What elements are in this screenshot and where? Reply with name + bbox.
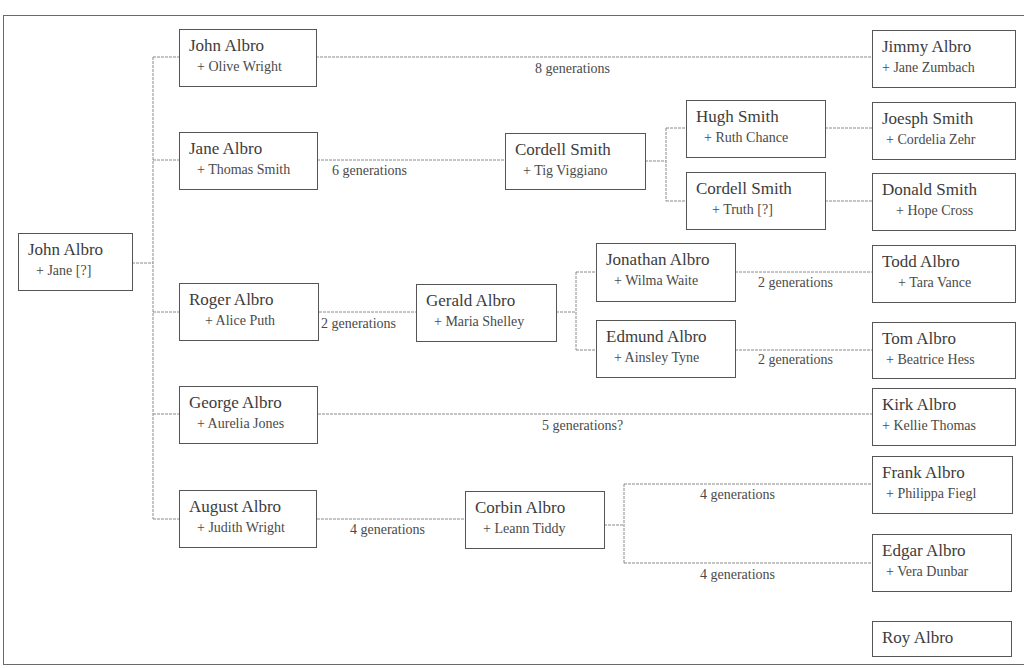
- person-name: Tom Albro: [882, 328, 1015, 349]
- spouse-name: + Alice Puth: [189, 310, 318, 331]
- spouse-name: + Ainsley Tyne: [606, 347, 735, 368]
- generation-label: 6 generations: [332, 163, 407, 179]
- spouse-name: + Leann Tiddy: [475, 518, 604, 539]
- generation-label: 8 generations: [535, 61, 610, 77]
- person-name: Jane Albro: [189, 138, 317, 159]
- generation-label: 2 generations: [758, 275, 833, 291]
- person-box-corbin-albro[interactable]: Corbin Albro + Leann Tiddy: [465, 491, 605, 549]
- person-box-todd-albro[interactable]: Todd Albro + Tara Vance: [872, 245, 1016, 303]
- person-box-frank-albro[interactable]: Frank Albro + Philippa Fiegl: [872, 456, 1013, 514]
- person-box-jonathan-albro[interactable]: Jonathan Albro + Wilma Waite: [596, 243, 736, 302]
- spouse-name: + Ruth Chance: [696, 127, 825, 148]
- generation-label: 4 generations: [350, 522, 425, 538]
- spouse-name: + Tig Viggiano: [515, 160, 645, 181]
- spouse-name: + Thomas Smith: [189, 159, 317, 180]
- person-name: Gerald Albro: [426, 290, 556, 311]
- spouse-name: + Cordelia Zehr: [882, 129, 1015, 150]
- person-box-roy-albro[interactable]: Roy Albro: [872, 621, 1012, 657]
- person-box-hugh-smith[interactable]: Hugh Smith + Ruth Chance: [686, 100, 826, 158]
- person-name: Kirk Albro: [882, 394, 1015, 415]
- spouse-name: + Philippa Fiegl: [882, 483, 1012, 504]
- spouse-name: + Wilma Waite: [606, 270, 735, 291]
- spouse-name: + Kellie Thomas: [882, 415, 1015, 436]
- person-name: Joesph Smith: [882, 108, 1015, 129]
- spouse-name: + Jane Zumbach: [882, 57, 1015, 78]
- person-box-roger-albro[interactable]: Roger Albro + Alice Puth: [179, 283, 319, 341]
- person-box-kirk-albro[interactable]: Kirk Albro + Kellie Thomas: [872, 388, 1016, 446]
- person-box-cordell-smith-tig[interactable]: Cordell Smith + Tig Viggiano: [505, 133, 646, 190]
- person-box-root-john-albro[interactable]: John Albro + Jane [?]: [18, 233, 133, 291]
- spouse-name: + Aurelia Jones: [189, 413, 317, 434]
- generation-label: 5 generations?: [542, 418, 623, 434]
- family-tree-diagram: John Albro + Jane [?] John Albro + Olive…: [0, 0, 1024, 668]
- person-name: Corbin Albro: [475, 497, 604, 518]
- spouse-name: + Jane [?]: [28, 260, 132, 281]
- person-box-joesph-smith[interactable]: Joesph Smith + Cordelia Zehr: [872, 102, 1016, 160]
- generation-label: 2 generations: [758, 352, 833, 368]
- person-box-edgar-albro[interactable]: Edgar Albro + Vera Dunbar: [872, 534, 1012, 592]
- person-name: Roger Albro: [189, 289, 318, 310]
- generation-label: 2 generations: [321, 316, 396, 332]
- person-name: George Albro: [189, 392, 317, 413]
- generation-label: 4 generations: [700, 567, 775, 583]
- person-box-jimmy-albro[interactable]: Jimmy Albro + Jane Zumbach: [872, 30, 1016, 88]
- person-name: Todd Albro: [882, 251, 1015, 272]
- person-name: Frank Albro: [882, 462, 1012, 483]
- spouse-name: + Olive Wright: [189, 56, 316, 77]
- person-box-donald-smith[interactable]: Donald Smith + Hope Cross: [872, 173, 1016, 231]
- person-box-edmund-albro[interactable]: Edmund Albro + Ainsley Tyne: [596, 320, 736, 378]
- person-name: Edmund Albro: [606, 326, 735, 347]
- spouse-name: + Hope Cross: [882, 200, 1015, 221]
- person-box-george-albro[interactable]: George Albro + Aurelia Jones: [179, 386, 318, 444]
- person-name: John Albro: [28, 239, 132, 260]
- generation-label: 4 generations: [700, 487, 775, 503]
- spouse-name: + Maria Shelley: [426, 311, 556, 332]
- person-box-gerald-albro[interactable]: Gerald Albro + Maria Shelley: [416, 284, 557, 342]
- person-name: Edgar Albro: [882, 540, 1011, 561]
- person-name: Jonathan Albro: [606, 249, 735, 270]
- person-box-tom-albro[interactable]: Tom Albro + Beatrice Hess: [872, 322, 1016, 379]
- spouse-name: + Vera Dunbar: [882, 561, 1011, 582]
- person-name: Donald Smith: [882, 179, 1015, 200]
- person-name: Cordell Smith: [696, 178, 825, 199]
- person-box-jane-albro[interactable]: Jane Albro + Thomas Smith: [179, 132, 318, 190]
- person-box-cordell-smith-truth[interactable]: Cordell Smith + Truth [?]: [686, 172, 826, 230]
- spouse-name: + Tara Vance: [882, 272, 1015, 293]
- person-name: John Albro: [189, 35, 316, 56]
- person-name: Cordell Smith: [515, 139, 645, 160]
- spouse-name: + Beatrice Hess: [882, 349, 1015, 370]
- person-name: Hugh Smith: [696, 106, 825, 127]
- person-name: Roy Albro: [882, 627, 1011, 648]
- person-box-john-albro[interactable]: John Albro + Olive Wright: [179, 29, 317, 87]
- spouse-name: + Judith Wright: [189, 517, 316, 538]
- person-box-august-albro[interactable]: August Albro + Judith Wright: [179, 490, 317, 548]
- person-name: Jimmy Albro: [882, 36, 1015, 57]
- person-name: August Albro: [189, 496, 316, 517]
- spouse-name: + Truth [?]: [696, 199, 825, 220]
